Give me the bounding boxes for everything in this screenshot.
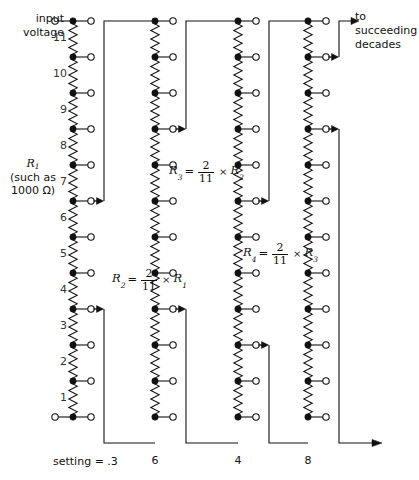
col4-tap-terminal-11[interactable] [323, 414, 329, 420]
col1-tap-terminal-5[interactable] [88, 198, 94, 204]
formula-r2-numerator: 2 [145, 268, 154, 280]
col2-tap-terminal-9[interactable] [170, 342, 176, 348]
col4-tap-terminal-6[interactable] [323, 234, 329, 240]
col4-node-1 [305, 54, 311, 60]
col2-wiper-3[interactable] [176, 126, 186, 133]
col3-wiper-9-head[interactable] [262, 342, 269, 349]
col3-wiper-5-head[interactable] [262, 198, 269, 205]
col4-resistor-9-zigzag [304, 93, 312, 129]
col4-tap-terminal-0[interactable] [323, 18, 329, 24]
col4-tap-terminal-4[interactable] [323, 162, 329, 168]
col2-wiper-3-head[interactable] [179, 126, 186, 133]
col4-wiper-3-head[interactable] [332, 126, 339, 133]
col2-tap-terminal-5[interactable] [170, 198, 176, 204]
col1-wiper-5[interactable] [94, 198, 104, 205]
col1-tap-terminal-10[interactable] [88, 378, 94, 384]
col4-tap-terminal-1[interactable] [323, 54, 329, 60]
col2-tap-terminal-1[interactable] [170, 54, 176, 60]
col4-output-bottom [339, 129, 374, 443]
col4-wiper-1[interactable] [329, 54, 339, 61]
col4-tap-terminal-8[interactable] [323, 306, 329, 312]
col3-wiper-9[interactable] [259, 342, 269, 349]
col4-node-0 [305, 18, 311, 24]
col1-node-4 [70, 162, 76, 168]
col1-node-9 [70, 342, 76, 348]
col1-resistor-8-zigzag [69, 129, 77, 165]
col3-tap-terminal-10[interactable] [253, 378, 259, 384]
col2-wiper-8[interactable] [176, 306, 186, 313]
col3-wiper-5[interactable] [259, 198, 269, 205]
col1-tap-terminal-11[interactable] [88, 414, 94, 420]
col3-tap-terminal-0[interactable] [253, 18, 259, 24]
col4-tap-terminal-3[interactable] [323, 126, 329, 132]
formula-r2-times: × [161, 275, 171, 285]
formula-r4-denominator: 11 [272, 254, 288, 267]
col1-wiper-5-head[interactable] [97, 198, 104, 205]
col3-tap-terminal-1[interactable] [253, 54, 259, 60]
col1-tap-terminal-7[interactable] [88, 270, 94, 276]
col2-tap-terminal-10[interactable] [170, 378, 176, 384]
col3-tap-terminal-7[interactable] [253, 270, 259, 276]
col1-node-1 [70, 54, 76, 60]
col2-tap-terminal-0[interactable] [170, 18, 176, 24]
col1-resistor-7-zigzag [69, 165, 77, 201]
col4-tap-terminal-9[interactable] [323, 342, 329, 348]
col1-tap-terminal-6[interactable] [88, 234, 94, 240]
col1-resistor-5-zigzag [69, 237, 77, 273]
col4-tap-terminal-7[interactable] [323, 270, 329, 276]
col1-bottom-terminal[interactable] [52, 414, 58, 420]
col4-node-2 [305, 90, 311, 96]
col4-resistor-10-zigzag [304, 57, 312, 93]
succeeding-decades-line2: succeeding [355, 24, 417, 38]
col3-node-8 [235, 306, 241, 312]
formula-r2-equals: = [127, 274, 137, 286]
col1-tap-terminal-2[interactable] [88, 90, 94, 96]
col1-wiper-8-head[interactable] [97, 306, 104, 313]
col2-wiper-8-head[interactable] [179, 306, 186, 313]
col2-tap-terminal-11[interactable] [170, 414, 176, 420]
col3-tap-terminal-8[interactable] [253, 306, 259, 312]
col3-node-11 [235, 414, 241, 420]
col3-tap-terminal-5[interactable] [253, 198, 259, 204]
col3-tap-terminal-11[interactable] [253, 414, 259, 420]
col1-step-label-4: 4 [53, 283, 67, 296]
col4-tap-terminal-2[interactable] [323, 90, 329, 96]
col4-tap-terminal-10[interactable] [323, 378, 329, 384]
col2-node-10 [152, 378, 158, 384]
col2-tap-terminal-6[interactable] [170, 234, 176, 240]
col2-resistor-8-zigzag [151, 129, 159, 165]
col4-wiper-1-head[interactable] [332, 54, 339, 61]
col4-tap-terminal-5[interactable] [323, 198, 329, 204]
col4-output-top [339, 21, 353, 57]
col3-tap-terminal-9[interactable] [253, 342, 259, 348]
col1-step-label-6: 6 [53, 211, 67, 224]
col1-wiper-8[interactable] [94, 306, 104, 313]
formula-r4-equals: = [258, 248, 268, 260]
col1-tap-terminal-8[interactable] [88, 306, 94, 312]
col3-resistor-3-zigzag [234, 309, 242, 345]
col3-tap-terminal-3[interactable] [253, 126, 259, 132]
formula-r3: R3=211×R2 [169, 160, 244, 184]
col3-tap-terminal-6[interactable] [253, 234, 259, 240]
col2-node-1 [152, 54, 158, 60]
col1-tap-terminal-3[interactable] [88, 126, 94, 132]
col4-wiper-3[interactable] [329, 126, 339, 133]
col1-tap-terminal-4[interactable] [88, 162, 94, 168]
col3-tap-terminal-2[interactable] [253, 90, 259, 96]
col2-tap-terminal-2[interactable] [170, 90, 176, 96]
col3-resistor-9 [234, 93, 242, 129]
col1-tap-terminal-1[interactable] [88, 54, 94, 60]
col3-tap-terminal-4[interactable] [253, 162, 259, 168]
col1-resistor-6 [69, 201, 77, 237]
col1-resistor-1 [69, 381, 77, 417]
col2-tap-terminal-8[interactable] [170, 306, 176, 312]
col2-tap-terminal-3[interactable] [170, 126, 176, 132]
column-col4 [304, 18, 374, 443]
col1-tap-terminal-0[interactable] [88, 18, 94, 24]
col2-resistor-7-zigzag [151, 165, 159, 201]
col1-tap-terminal-9[interactable] [88, 342, 94, 348]
col3-node-3 [235, 126, 241, 132]
col4-resistor-2 [304, 345, 312, 381]
col2-resistor-3-zigzag [151, 309, 159, 345]
col3-node-1 [235, 54, 241, 60]
